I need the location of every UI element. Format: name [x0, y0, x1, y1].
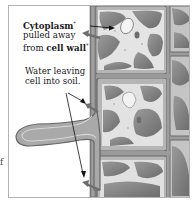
cell-wall-term: cell wall: [46, 43, 86, 53]
cytoplasm-label-line2: pulled away: [23, 31, 89, 41]
arrowhead-icon: [80, 98, 86, 104]
cell-tissue: [90, 6, 192, 200]
cell-wall-horizontal-2: [96, 151, 170, 155]
cell-right-column: [170, 6, 192, 200]
cytoplasm-label-prefix: from: [23, 43, 46, 53]
cropped-edge-text: f: [0, 157, 3, 167]
water-leaving-label: Water leaving cell into soil.: [25, 67, 85, 86]
cell-middle: [97, 78, 167, 151]
root-hair: [16, 110, 100, 190]
cell-lower: [97, 156, 167, 200]
glossary-mark: *: [73, 20, 76, 26]
water-label-line2: cell into soil.: [25, 77, 85, 87]
glossary-mark: *: [86, 42, 89, 48]
cell-wall-right: [166, 6, 170, 197]
cytoplasm-label: Cytoplasm* pulled away from cell wall*: [23, 19, 89, 54]
arrowhead-icon: [81, 171, 86, 178]
cell-wall-horizontal-1: [96, 74, 170, 78]
cell-upper: [95, 6, 167, 74]
cytoplasm-term: Cytoplasm: [23, 21, 73, 31]
